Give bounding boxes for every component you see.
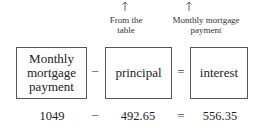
annotation-line: payment <box>160 25 252 35</box>
box-text-line: Monthly <box>27 52 76 66</box>
box-interest: interest <box>190 47 248 99</box>
value-interest: 556.35 <box>196 109 244 124</box>
annotation-line: table <box>105 25 147 35</box>
value-payment: 1049 <box>32 109 72 124</box>
annotation-line: From the <box>105 15 147 25</box>
box-text-line: payment <box>27 80 76 94</box>
annotation-monthly-payment: Monthly mortgage payment <box>160 15 252 35</box>
up-arrow-icon <box>184 1 194 12</box>
box-principal: principal <box>105 47 172 99</box>
annotation-from-table: From the table <box>105 15 147 35</box>
up-arrow-icon <box>120 1 130 12</box>
box-text-line: interest <box>200 66 238 80</box>
value-principal: 492.65 <box>115 109 161 124</box>
box-text-line: principal <box>115 66 161 80</box>
minus-operator: − <box>88 108 102 124</box>
equals-operator: = <box>174 108 188 124</box>
equals-operator: = <box>174 64 188 80</box>
box-monthly-mortgage-payment: Monthly mortgage payment <box>16 47 87 99</box>
annotation-line: Monthly mortgage <box>160 15 252 25</box>
box-text-line: mortgage <box>27 66 76 80</box>
minus-operator: − <box>88 64 102 80</box>
